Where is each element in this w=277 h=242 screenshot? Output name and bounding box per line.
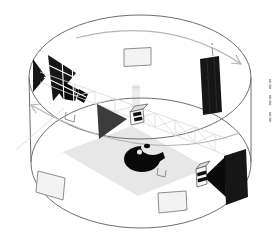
striped-cube-front [196, 166, 207, 187]
lower-right-dark-panel [224, 149, 248, 205]
lower-right-exhibit-cluster [196, 149, 248, 205]
inner-arrow-head [31, 104, 40, 113]
crescent-body [124, 146, 160, 172]
panel-tick-dot [211, 43, 213, 45]
diagram-canvas [0, 0, 277, 242]
left-sculpture-blob-part [77, 89, 88, 103]
wall-screen-bottom [158, 191, 187, 213]
left-wall-line [29, 78, 31, 162]
wall-screen-left [36, 171, 65, 200]
upper-right-dark-panel-group [200, 43, 222, 115]
ceiling-screen [124, 48, 151, 67]
column-cap [132, 85, 140, 89]
vertical-caption-marks [269, 79, 271, 122]
axonometric-diagram [0, 0, 277, 242]
crescent-nub [144, 144, 150, 148]
guide-line [16, 108, 64, 150]
left-small-triangle [33, 59, 46, 92]
upper-right-dark-panel [200, 56, 222, 115]
